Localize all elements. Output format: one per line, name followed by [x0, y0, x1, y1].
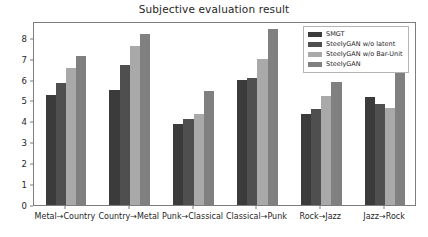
- x-tick-label: Country→Metal: [98, 212, 159, 221]
- y-tick-label: 5: [22, 96, 27, 106]
- y-tick-label: 2: [22, 159, 27, 169]
- legend-label: SteelyGAN w/o Bar-Unit: [326, 50, 403, 59]
- legend-label: SteelyGAN w/o latent: [326, 40, 395, 49]
- legend-swatch-icon: [308, 42, 322, 47]
- y-tick-label: 7: [22, 55, 27, 65]
- y-tick-label: 6: [22, 76, 27, 86]
- legend-item: SteelyGAN: [308, 60, 404, 69]
- legend-label: SMGT: [326, 30, 345, 39]
- x-tick-mark: [384, 206, 385, 209]
- bar: [395, 69, 405, 205]
- x-tick-label: Jazz→Rock: [363, 212, 405, 221]
- x-tick-mark: [128, 206, 129, 209]
- legend-label: SteelyGAN: [326, 60, 361, 69]
- x-tick-label: Rock→Jazz: [300, 212, 342, 221]
- chart-figure: Subjective evaluation result 012345678 M…: [0, 0, 428, 237]
- x-tick-label: Punk→Classical: [162, 212, 223, 221]
- x-tick-mark: [320, 206, 321, 209]
- bar: [375, 104, 385, 205]
- bar: [365, 97, 375, 205]
- legend-swatch-icon: [308, 52, 322, 57]
- legend-swatch-icon: [308, 32, 322, 37]
- x-tick-mark: [256, 206, 257, 209]
- x-tick-mark: [64, 206, 65, 209]
- legend-item: SMGT: [308, 30, 404, 39]
- x-axis: Metal→CountryCountry→MetalPunk→Classical…: [33, 206, 416, 234]
- y-tick-label: 4: [22, 117, 27, 127]
- y-tick-label: 3: [22, 138, 27, 148]
- x-tick-label: Metal→Country: [35, 212, 96, 221]
- y-tick-label: 0: [22, 201, 27, 211]
- legend-swatch-icon: [308, 62, 322, 67]
- y-tick-label: 8: [22, 34, 27, 44]
- x-tick-mark: [192, 206, 193, 209]
- x-tick-label: Classical→Punk: [226, 212, 287, 221]
- legend-item: SteelyGAN w/o Bar-Unit: [308, 50, 404, 59]
- chart-legend: SMGTSteelyGAN w/o latentSteelyGAN w/o Ba…: [303, 26, 409, 73]
- y-axis: 012345678: [0, 22, 33, 206]
- legend-item: SteelyGAN w/o latent: [308, 40, 404, 49]
- y-tick-label: 1: [22, 180, 27, 190]
- chart-title: Subjective evaluation result: [0, 3, 428, 15]
- bar: [385, 108, 395, 205]
